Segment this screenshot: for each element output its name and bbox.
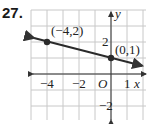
x-axis-label: x — [133, 76, 140, 91]
y-tick-label: 2 — [102, 34, 109, 49]
y-axis-label: y — [113, 6, 121, 21]
x-tick-label: −4 — [40, 76, 54, 91]
point-label: (0,1) — [115, 42, 140, 57]
origin-label: O — [98, 76, 108, 91]
data-point — [44, 39, 50, 45]
graph: xyO−4−212−2(−4,2)(0,1) — [0, 0, 151, 124]
point-label: (−4,2) — [51, 23, 83, 38]
x-tick-label: −2 — [72, 76, 86, 91]
data-point — [108, 55, 114, 61]
x-tick-label: 1 — [124, 76, 131, 91]
y-tick-label: −2 — [99, 98, 113, 113]
